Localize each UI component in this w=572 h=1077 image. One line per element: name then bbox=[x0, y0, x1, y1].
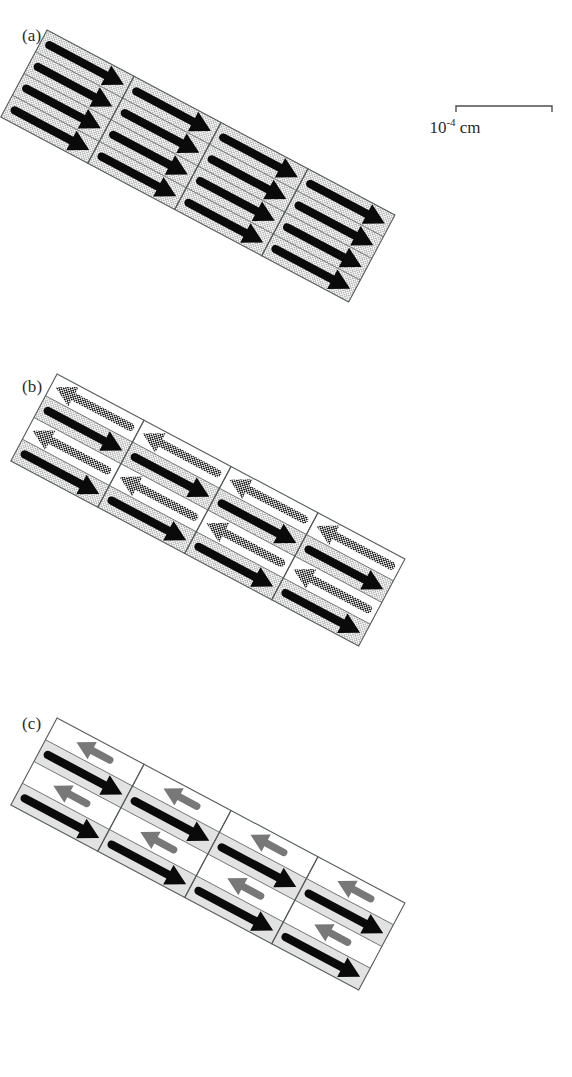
panel-label-c: (c) bbox=[22, 714, 41, 734]
scale-bar-value: 10 bbox=[429, 118, 446, 137]
domain-strip-c bbox=[8, 716, 408, 995]
scale-bar-unit-text: cm bbox=[460, 118, 481, 137]
figure-canvas: (a) (b) (c) 10-4 cm bbox=[0, 0, 572, 1077]
panel-label-b: (b) bbox=[22, 377, 42, 397]
scale-bar-exponent: -4 bbox=[446, 116, 455, 128]
domain-strip-a bbox=[0, 28, 398, 307]
scale-bar-caption: 10-4 cm bbox=[429, 116, 480, 138]
scale-bar-rule bbox=[455, 104, 556, 116]
domain-strip-b bbox=[8, 372, 408, 651]
